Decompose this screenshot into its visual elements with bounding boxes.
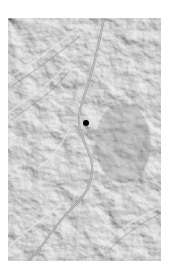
shaded-massif (95, 103, 151, 183)
terrain-layer (8, 18, 161, 261)
relief-map[interactable] (8, 18, 161, 261)
location-marker[interactable] (83, 120, 89, 126)
